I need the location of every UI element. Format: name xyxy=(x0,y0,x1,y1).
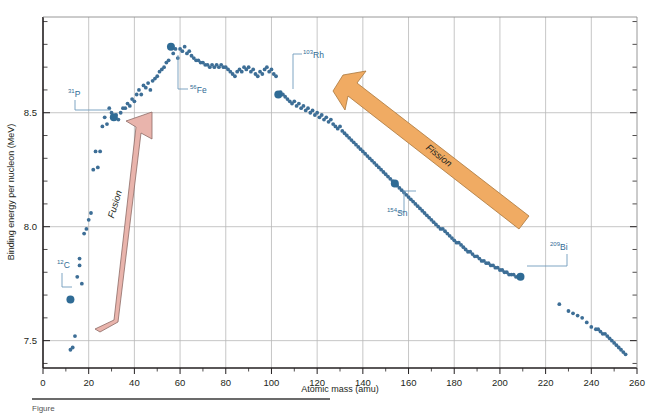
svg-text:260: 260 xyxy=(629,377,645,388)
y-axis-title: Binding energy per nucleon (MeV) xyxy=(6,124,16,261)
svg-text:0: 0 xyxy=(40,377,45,388)
figure-container: 020406080100120140160180200220240260 7.5… xyxy=(0,0,658,413)
y-tick-labels: 7.58.08.5 xyxy=(24,107,37,346)
svg-text:7.5: 7.5 xyxy=(24,335,37,346)
svg-text:200: 200 xyxy=(492,377,508,388)
svg-text:60: 60 xyxy=(175,377,186,388)
svg-text:40: 40 xyxy=(129,377,140,388)
svg-text:220: 220 xyxy=(538,377,554,388)
svg-text:100: 100 xyxy=(264,377,280,388)
binding-energy-chart: 020406080100120140160180200220240260 7.5… xyxy=(0,0,658,413)
svg-text:160: 160 xyxy=(401,377,417,388)
svg-text:20: 20 xyxy=(83,377,94,388)
svg-text:80: 80 xyxy=(220,377,231,388)
svg-text:8.5: 8.5 xyxy=(24,107,37,118)
figure-caption: Figure xyxy=(32,404,55,413)
svg-text:240: 240 xyxy=(583,377,599,388)
svg-text:8.0: 8.0 xyxy=(24,221,37,232)
x-axis-title: Atomic mass (amu) xyxy=(301,384,379,394)
svg-text:180: 180 xyxy=(446,377,462,388)
